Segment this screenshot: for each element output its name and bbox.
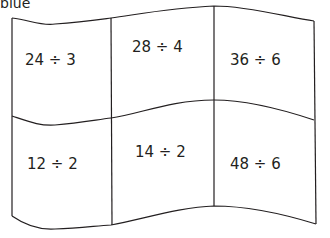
problem-cell-4: 12 ÷ 2 [27, 155, 78, 173]
problem-cell-5: 14 ÷ 2 [135, 143, 186, 161]
problem-cell-2: 28 ÷ 4 [132, 38, 183, 56]
wavy-flag-grid [0, 0, 330, 238]
problem-cell-1: 24 ÷ 3 [25, 51, 76, 69]
problem-cell-3: 36 ÷ 6 [230, 51, 281, 69]
problem-cell-6: 48 ÷ 6 [230, 155, 281, 173]
